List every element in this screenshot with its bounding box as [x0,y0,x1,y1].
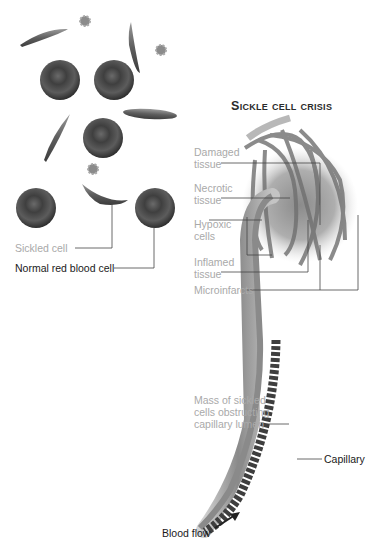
label-damaged-tissue: Damaged tissue [194,146,240,170]
cell-group [16,16,177,228]
label-mass-sickled-cells: Mass of sickled cells obstructing capill… [194,394,269,430]
label-necrotic-tissue: Necrotic tissue [194,182,233,206]
normal-rbc [83,118,123,158]
diagram-title: Sickle cell crisis [231,99,332,113]
normal-rbc [135,188,175,228]
label-hypoxic-cells: Hypoxic cells [194,218,231,242]
sickled-cell [129,22,140,73]
normal-rbc [16,188,56,228]
sickled-cell [20,29,68,47]
sickled-cell [82,184,128,205]
capillary-illustration [200,118,358,532]
label-inflamed-tissue: Inflamed tissue [194,256,234,280]
label-sickled-cell: Sickled cell [15,242,68,254]
platelet [80,16,90,26]
normal-rbc [40,60,80,100]
label-normal-rbc: Normal red blood cell [15,262,114,274]
normal-rbc [94,60,134,100]
label-blood-flow: Blood flow [162,527,210,539]
sickled-cell [123,107,178,121]
label-capillary: Capillary [324,453,365,465]
illustration [0,0,381,552]
sickled-cell [44,114,70,162]
label-microinfarcts: Microinfarcts [194,284,254,296]
platelet [88,164,98,174]
platelet [156,45,166,55]
